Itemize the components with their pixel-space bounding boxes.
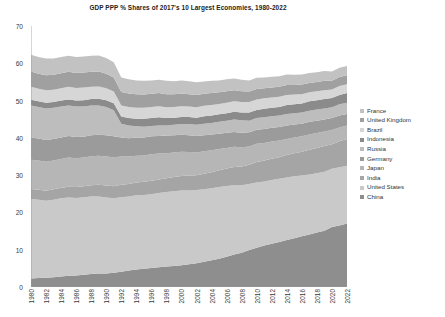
y-axis-tick-20: 20 [16,209,23,216]
x-axis-tick-2022: 2022 [344,289,351,303]
legend-item-india[interactable]: India [360,173,445,183]
y-axis-tick-0: 0 [19,284,23,291]
y-axis-tick-40: 40 [16,134,23,141]
legend-item-germany[interactable]: Germany [360,154,445,164]
y-axis-tick-60: 60 [16,60,23,67]
legend-item-label: France [367,108,386,114]
chart-title: GDP PPP % Shares of 2017's 10 Largest Ec… [0,4,376,11]
legend-item-label: Russia [367,146,386,152]
x-axis-tick-1984: 1984 [58,289,65,303]
legend-swatch-icon [360,109,364,113]
plot-area [31,26,347,287]
x-axis-tick-1996: 1996 [148,289,155,303]
x-axis-tick-1990: 1990 [103,289,110,303]
legend-swatch-icon [360,186,364,190]
y-axis-tick-50: 50 [16,97,23,104]
x-axis-tick-1998: 1998 [163,289,170,303]
x-axis-tick-2008: 2008 [238,289,245,303]
x-axis-tick-2012: 2012 [268,289,275,303]
x-axis-tick-2018: 2018 [313,289,320,303]
x-axis-tick-2010: 2010 [253,289,260,303]
legend-item-label: India [367,175,380,181]
y-axis-tick-70: 70 [16,23,23,30]
x-axis-tick-2000: 2000 [178,289,185,303]
x-axis-tick-2016: 2016 [298,289,305,303]
legend-item-label: Brazil [367,127,382,133]
x-axis-tick-1988: 1988 [88,289,95,303]
legend-item-indonesia[interactable]: Indonesia [360,135,445,145]
legend-swatch-icon [360,195,364,199]
x-axis-tick-2004: 2004 [208,289,215,303]
legend-item-label: Japan [367,165,384,171]
legend-item-japan[interactable]: Japan [360,164,445,174]
legend-item-label: Indonesia [367,136,394,142]
x-axis-tick-1986: 1986 [73,289,80,303]
legend-swatch-icon [360,157,364,161]
legend-swatch-icon [360,166,364,170]
legend-swatch-icon [360,147,364,151]
legend-swatch-icon [360,176,364,180]
y-axis: 010203040506070 [0,26,27,287]
x-axis-tick-2002: 2002 [193,289,200,303]
legend-item-label: United States [367,184,404,190]
x-axis: 1980198219841986198819901992199419961998… [31,289,347,317]
legend-item-united-states[interactable]: United States [360,183,445,193]
y-axis-tick-10: 10 [16,246,23,253]
legend-swatch-icon [360,118,364,122]
x-axis-tick-2014: 2014 [283,289,290,303]
legend-item-france[interactable]: France [360,106,445,116]
plot-svg [31,26,347,287]
legend-item-label: Germany [367,156,392,162]
legend-item-russia[interactable]: Russia [360,144,445,154]
legend-item-united-kingdom[interactable]: United Kingdom [360,116,445,126]
legend-swatch-icon [360,128,364,132]
legend-item-label: China [367,194,383,200]
legend-item-brazil[interactable]: Brazil [360,125,445,135]
x-axis-tick-1992: 1992 [118,289,125,303]
legend-swatch-icon [360,138,364,142]
x-axis-tick-1982: 1982 [43,289,50,303]
legend-item-label: United Kingdom [367,117,411,123]
x-axis-tick-2020: 2020 [328,289,335,303]
legend-item-china[interactable]: China [360,192,445,202]
chart-legend: FranceUnited KingdomBrazilIndonesiaRussi… [360,106,445,202]
x-axis-tick-2006: 2006 [223,289,230,303]
x-axis-tick-1994: 1994 [133,289,140,303]
stacked-area-chart: GDP PPP % Shares of 2017's 10 Largest Ec… [0,0,445,317]
x-axis-tick-1980: 1980 [28,289,35,303]
y-axis-tick-30: 30 [16,172,23,179]
